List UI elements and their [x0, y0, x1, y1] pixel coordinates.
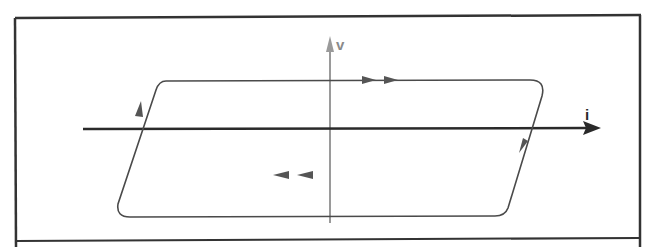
- v-axis-label: v: [336, 36, 345, 53]
- arrow-left-icon: [297, 171, 313, 179]
- v-axis-arrow-icon: [326, 36, 334, 52]
- arrow-left-icon: [273, 171, 289, 179]
- arrow-right-icon: [384, 76, 398, 84]
- i-axis-label: i: [585, 106, 589, 123]
- arrow-right-icon: [362, 76, 376, 84]
- hysteresis-diagram: v i: [0, 0, 651, 247]
- arrow-up-icon: [135, 101, 143, 117]
- i-axis: [83, 121, 601, 135]
